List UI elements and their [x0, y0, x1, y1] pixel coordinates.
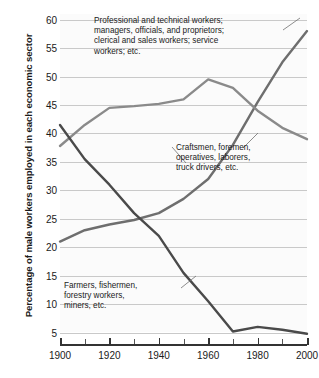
x-axis-tick-label: 1980: [238, 350, 278, 361]
annotation-craftsmen: Craftsmen, foremen, operatives, laborers…: [176, 143, 306, 174]
x-axis-minor-tick: [233, 339, 234, 344]
annotation-leader-line: [283, 18, 300, 30]
annotation-professional: Professional and technical workers; mana…: [94, 16, 284, 57]
x-axis-tick-label: 2000: [287, 350, 319, 361]
data-line-professional: [60, 31, 307, 242]
x-axis-minor-tick: [282, 339, 283, 344]
x-axis-major-tick: [109, 338, 111, 345]
x-axis-tick-label: 1920: [89, 350, 129, 361]
x-axis-tick-label: 1940: [139, 350, 179, 361]
annotation-farmers: Farmers, fishermen, forestry workers, mi…: [64, 281, 184, 312]
x-axis-major-tick: [307, 338, 309, 345]
x-axis-major-tick: [60, 338, 62, 345]
x-axis-minor-tick: [184, 339, 185, 344]
x-axis-minor-tick: [85, 339, 86, 344]
x-axis-major-tick: [159, 338, 161, 345]
x-axis-major-tick: [258, 338, 260, 345]
line-chart: Percentage of male workers employed in e…: [0, 0, 319, 378]
x-axis-tick-label: 1960: [188, 350, 228, 361]
data-line-craftsmen: [60, 79, 307, 146]
x-axis-tick-label: 1900: [40, 350, 80, 361]
x-axis-line: [60, 344, 307, 346]
x-axis-major-tick: [208, 338, 210, 345]
x-axis-minor-tick: [134, 339, 135, 344]
